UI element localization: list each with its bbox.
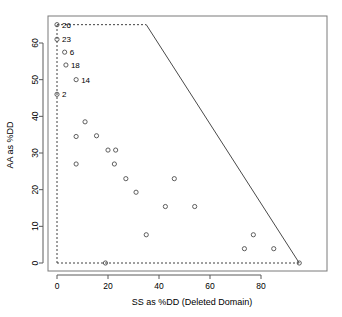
figure-background: [0, 0, 342, 317]
x-axis-title: SS as %DD (Deleted Domain): [132, 297, 253, 307]
data-point-label-26: 26: [62, 21, 71, 30]
x-tick-label-80: 80: [256, 281, 266, 291]
x-tick-label-60: 60: [205, 281, 215, 291]
y-tick-label-20: 20: [30, 185, 40, 195]
y-tick-label-30: 30: [30, 148, 40, 158]
y-tick-label-60: 60: [30, 38, 40, 48]
y-tick-label-40: 40: [30, 111, 40, 121]
data-point-label-6: 6: [70, 48, 75, 57]
data-point-label-2: 2: [62, 90, 67, 99]
y-tick-label-50: 50: [30, 75, 40, 85]
data-point-label-18: 18: [71, 61, 80, 70]
y-tick-label-10: 10: [30, 221, 40, 231]
x-tick-label-20: 20: [103, 281, 113, 291]
y-tick-label-0: 0: [30, 260, 40, 265]
y-axis-title: AA as %DD: [5, 121, 15, 169]
x-tick-label-0: 0: [55, 281, 60, 291]
data-point-label-14: 14: [81, 76, 90, 85]
data-point-label-23: 23: [62, 35, 71, 44]
x-tick-label-40: 40: [154, 281, 164, 291]
scatter-plot-figure: 020406080 0102030405060 2623618142 SS as…: [0, 0, 342, 317]
plot-canvas: 020406080 0102030405060 2623618142 SS as…: [0, 0, 342, 317]
